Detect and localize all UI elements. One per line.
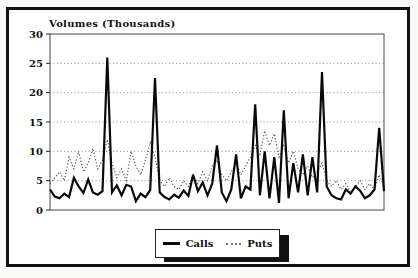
calls-solid-line-icon [163, 242, 180, 245]
y-axis-tick-labels: 051015202530 [29, 29, 43, 216]
y-tick-label: 20 [29, 87, 43, 98]
legend-item-puts: Puts [226, 238, 272, 249]
y-tick-label: 10 [29, 146, 43, 157]
legend-puts-label: Puts [247, 238, 272, 249]
y-tick-label: 30 [29, 29, 43, 40]
y-tick-label: 15 [29, 117, 43, 128]
legend-calls-label: Calls [186, 238, 214, 249]
y-axis-ticks [46, 34, 50, 210]
legend-item-calls: Calls [163, 238, 214, 249]
y-tick-label: 5 [36, 175, 43, 186]
y-tick-label: 25 [29, 58, 43, 69]
puts-dotted-line-icon [226, 243, 241, 245]
legend: Calls Puts [155, 229, 280, 258]
y-tick-label: 0 [36, 205, 43, 216]
